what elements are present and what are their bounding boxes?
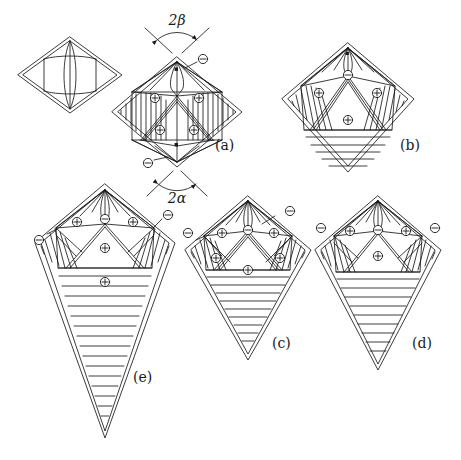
hatch-bottom-b — [306, 137, 390, 166]
panel-label-d: (d) — [412, 335, 432, 351]
panel-label-c: (c) — [272, 335, 291, 351]
negative-disclination — [34, 235, 43, 244]
positive-disclination — [100, 277, 109, 286]
positive-disclination — [189, 125, 198, 134]
hatch-right-b — [364, 86, 404, 130]
positive-disclination — [194, 93, 203, 102]
hatch-left-d — [321, 237, 355, 272]
negative-disclination — [100, 214, 109, 223]
positive-disclination — [100, 243, 109, 252]
positive-disclination — [401, 226, 410, 235]
positive-disclination — [275, 253, 284, 262]
positive-disclination — [372, 88, 381, 97]
negative-disclination — [163, 210, 172, 219]
negative-disclination — [343, 70, 352, 79]
figure-root: 2β 2α (a) (b) (c) (d) (e) — [0, 0, 461, 460]
negative-disclination — [430, 223, 439, 232]
diagram-canvas: 2β 2α (a) (b) (c) (d) (e) — [0, 0, 461, 460]
positive-disclination — [211, 253, 220, 262]
positive-disclination — [217, 228, 226, 237]
leader-minus-bottom-a — [154, 157, 168, 160]
angle-label-alpha: 2α — [167, 190, 187, 206]
positive-disclination — [128, 217, 137, 226]
negative-disclination — [143, 158, 152, 167]
positive-disclination — [155, 125, 164, 134]
positive-disclination — [269, 228, 278, 237]
positive-disclination — [373, 251, 382, 260]
panel-c — [183, 196, 311, 360]
negative-disclination — [183, 228, 192, 237]
hatch-left-b — [292, 86, 332, 130]
positive-disclination — [345, 226, 354, 235]
negative-disclination — [198, 54, 207, 63]
panel-label-a: (a) — [215, 137, 234, 153]
hatch-bottom-c — [207, 277, 289, 341]
positive-disclination — [150, 93, 159, 102]
negative-disclination — [285, 206, 294, 215]
panel-b — [282, 43, 414, 172]
panel-label-e: (e) — [133, 369, 152, 385]
positive-disclination — [343, 115, 352, 124]
panel-e — [34, 184, 175, 438]
angle-label-beta: 2β — [167, 12, 185, 28]
positive-disclination — [72, 217, 81, 226]
positive-disclination — [243, 265, 252, 274]
leader-minus-right-e — [153, 219, 162, 228]
negative-disclination — [316, 223, 325, 232]
positive-disclination — [314, 88, 323, 97]
panel-a — [112, 28, 242, 196]
panel-label-b: (b) — [400, 137, 420, 153]
negative-disclination — [243, 225, 252, 234]
hatch-bottom-e — [59, 276, 151, 416]
hatch-right-d — [401, 237, 435, 272]
negative-disclination — [373, 225, 382, 234]
angle-beta-guides — [145, 28, 209, 53]
panel-seed — [18, 37, 122, 113]
